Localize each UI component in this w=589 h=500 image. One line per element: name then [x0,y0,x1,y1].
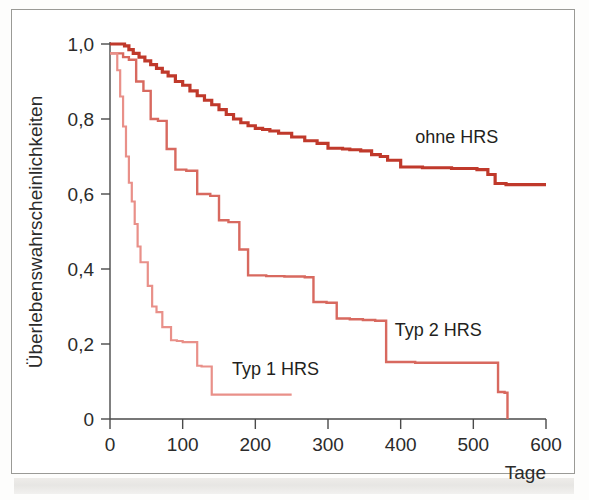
y-tick-label: 0,2 [68,334,94,355]
label-ohne-hrs: ohne HRS [415,127,498,147]
series-step-curves [110,44,546,419]
label-typ-1-hrs: Typ 1 HRS [232,359,319,379]
y-tick-label: 0,6 [68,184,94,205]
y-axis-title: Überlebenswahrscheinlichkeiten [25,96,46,369]
x-axis-tick-labels: 0100200300400500600 [105,434,562,455]
x-axis-ticks [110,419,546,429]
x-tick-label: 600 [530,434,562,455]
y-axis-tick-labels: 00,20,40,60,81,0 [68,34,95,430]
x-tick-label: 100 [167,434,199,455]
x-tick-label: 400 [385,434,417,455]
x-tick-label: 200 [239,434,271,455]
curve-typ-1-hrs [110,53,292,394]
y-tick-label: 0,4 [68,259,95,280]
y-axis-ticks [101,44,110,419]
survival-chart-svg: 00,20,40,60,81,0 0100200300400500600 ohn… [0,0,589,500]
y-axis-group: 00,20,40,60,81,0 [68,34,110,430]
y-tick-label: 0,8 [68,109,94,130]
y-tick-label: 0 [83,409,94,430]
x-tick-label: 500 [457,434,489,455]
x-tick-label: 300 [312,434,344,455]
x-tick-label: 0 [105,434,116,455]
figure-canvas: 00,20,40,60,81,0 0100200300400500600 ohn… [0,0,589,500]
x-axis-group: 0100200300400500600 [105,419,562,455]
series-inline-labels: ohne HRSTyp 2 HRSTyp 1 HRS [232,127,498,378]
x-axis-title: Tage [505,462,546,483]
y-tick-label: 1,0 [68,34,94,55]
label-typ-2-hrs: Typ 2 HRS [395,320,482,340]
